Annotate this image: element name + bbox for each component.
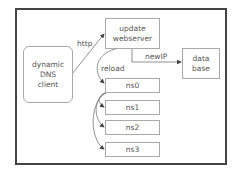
webserver-label-line2: webserver	[113, 34, 152, 44]
ns1-label: ns1	[126, 103, 139, 113]
client-label-line2: DNS	[40, 70, 56, 80]
client-label-line1: dynamic	[32, 60, 64, 70]
ns3-label: ns3	[126, 145, 139, 155]
newip-label: newIP	[145, 52, 167, 61]
client-label-line3: client	[38, 80, 59, 90]
ns2-node: ns2	[105, 120, 160, 135]
database-label-line2: base	[192, 64, 210, 74]
ns2-label: ns2	[126, 123, 139, 133]
reload-label: reload	[101, 64, 125, 73]
ns3-node: ns3	[105, 142, 160, 157]
ns1-node: ns1	[105, 100, 160, 115]
ns0-node: ns0	[105, 78, 160, 93]
database-node: data base	[182, 48, 220, 79]
dynamic-dns-client-node: dynamic DNS client	[23, 46, 73, 103]
update-webserver-node: update webserver	[105, 18, 160, 49]
ns0-label: ns0	[126, 81, 139, 91]
http-label: http	[77, 39, 92, 48]
database-label-line1: data	[193, 54, 210, 64]
webserver-label-line1: update	[119, 24, 145, 34]
